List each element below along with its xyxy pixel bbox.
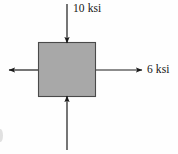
figure-canvas: 10 ksi 6 ksi (0, 0, 178, 154)
top-stress-label: 10 ksi (73, 2, 101, 14)
stress-element-diagram (0, 0, 178, 154)
stress-element-square (39, 43, 96, 97)
right-stress-label: 6 ksi (147, 63, 170, 75)
